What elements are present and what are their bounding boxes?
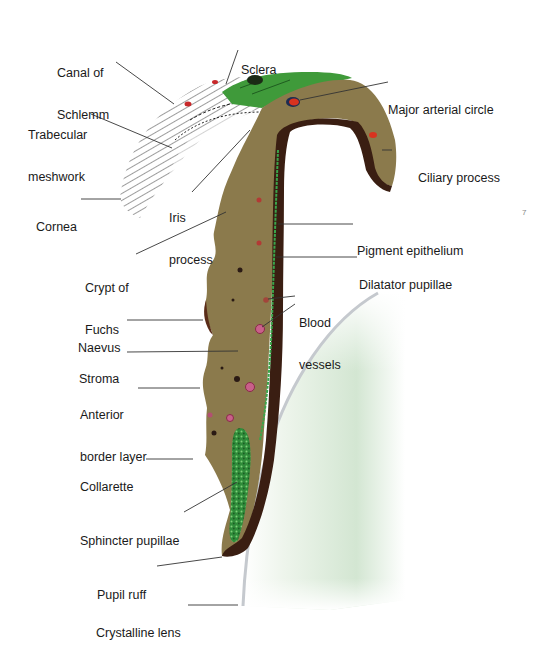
label-text: Anterior (80, 408, 147, 422)
label-text: Cornea (36, 220, 77, 234)
label-text: process (169, 253, 213, 267)
label-text: Sphincter pupillae (80, 534, 179, 548)
label-text: Blood (299, 316, 341, 330)
label-text: Crystalline lens (96, 626, 181, 640)
page-mark: 7 (522, 208, 526, 217)
label-text: Canal of (57, 66, 109, 80)
label-trabecular-meshwork: Trabecular meshwork (28, 100, 87, 198)
label-ciliary-process: Ciliary process (418, 143, 500, 199)
label-major-arterial-circle: Major arterial circle (388, 75, 494, 131)
label-text: meshwork (28, 170, 87, 184)
label-text: Ciliary process (418, 171, 500, 185)
label-dilatator-pupillae: Dilatator pupillae (359, 250, 452, 306)
label-text: Dilatator pupillae (359, 278, 452, 292)
label-crystalline-lens: Crystalline lens (96, 598, 181, 649)
label-text: Major arterial circle (388, 103, 494, 117)
label-text: Crypt of (85, 281, 129, 295)
label-iris-process: Iris process (169, 183, 213, 281)
label-sclera: Sclera (241, 35, 276, 91)
label-collarette: Collarette (80, 452, 134, 508)
label-cornea: Cornea (36, 192, 77, 248)
label-text: vessels (299, 358, 341, 372)
label-blood-vessels: Blood vessels (299, 288, 341, 386)
label-text: Iris (169, 211, 213, 225)
label-text: Collarette (80, 480, 134, 494)
label-text: Trabecular (28, 128, 87, 142)
label-text: Sclera (241, 63, 276, 77)
label-sphincter-pupillae: Sphincter pupillae (80, 506, 179, 562)
